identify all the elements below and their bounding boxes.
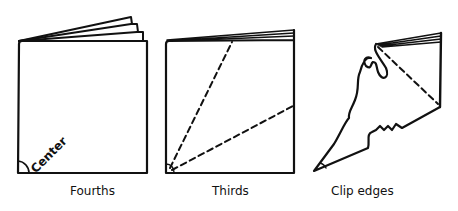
center-corner-arc [18,161,29,173]
clip-edges-paper [314,33,441,171]
thirds-caption: Thirds [212,184,249,198]
clip-edges-caption: Clip edges [331,184,394,198]
thirds-folded-paper [166,30,294,173]
clip-page-edges [376,33,441,47]
clip-right-edge [440,33,441,107]
folding-diagram [0,0,458,211]
fourths-square [18,41,147,173]
fourths-caption: Fourths [70,184,115,198]
fourths-folded-paper [18,17,147,173]
thirds-fold-line-1 [170,42,232,168]
thirds-fold-line-2 [172,106,293,170]
thirds-square [166,30,294,173]
clip-outline [314,44,440,171]
